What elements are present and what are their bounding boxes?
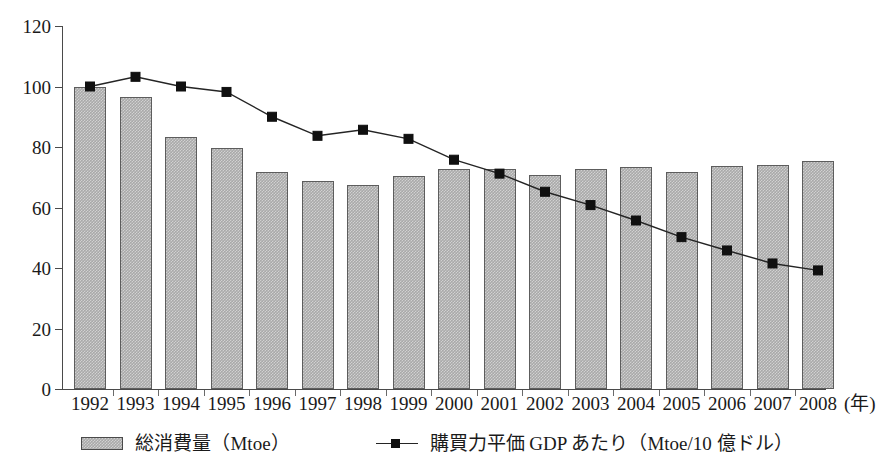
line-marker-2001 — [495, 169, 504, 178]
x-tick-label-2003: 2003 — [572, 393, 610, 416]
line-marker-2007 — [768, 259, 777, 268]
line-marker-1998 — [359, 125, 368, 134]
x-axis-labels: 1992199319941995199619971998199920002001… — [62, 393, 852, 421]
x-tick-label-1999: 1999 — [390, 393, 428, 416]
y-tick-label: 20 — [32, 319, 51, 338]
line-marker-2002 — [541, 187, 550, 196]
line-series-path — [90, 77, 818, 271]
bar-swatch-icon — [81, 437, 123, 450]
y-tick-mark — [55, 268, 62, 269]
y-tick-mark — [55, 329, 62, 330]
x-tick-label-2006: 2006 — [708, 393, 746, 416]
legend-entry-gdp-intensity: 購買力平価 GDP あたり（Mtoe/10 億ドル） — [376, 434, 793, 453]
line-marker-1992 — [86, 82, 95, 91]
line-marker-1993 — [131, 72, 140, 81]
legend-label-total-consumption: 総消費量（Mtoe） — [135, 434, 289, 453]
line-marker-2000 — [450, 155, 459, 164]
y-tick-mark — [55, 87, 62, 88]
x-tick-label-2005: 2005 — [663, 393, 701, 416]
y-tick-label: 40 — [32, 259, 51, 278]
y-tick-mark — [55, 389, 62, 390]
line-marker-1997 — [313, 131, 322, 140]
x-tick-label-1993: 1993 — [117, 393, 155, 416]
x-tick-label-2000: 2000 — [435, 393, 473, 416]
y-tick-label: 60 — [32, 198, 51, 217]
y-tick-label: 120 — [23, 17, 52, 36]
line-marker-1994 — [177, 82, 186, 91]
x-tick-label-1992: 1992 — [71, 393, 109, 416]
x-tick-label-2004: 2004 — [617, 393, 655, 416]
line-series-layer — [62, 26, 826, 390]
x-tick-label-1994: 1994 — [162, 393, 200, 416]
x-tick-label-1995: 1995 — [208, 393, 246, 416]
y-tick-mark — [55, 147, 62, 148]
x-tick-label-2008: 2008 — [799, 393, 837, 416]
y-tick-label: 0 — [42, 380, 52, 399]
y-tick-label: 80 — [32, 138, 51, 157]
legend-label-gdp-intensity: 購買力平価 GDP あたり（Mtoe/10 億ドル） — [430, 434, 793, 453]
line-marker-swatch-icon — [376, 437, 418, 450]
line-marker-1995 — [222, 87, 231, 96]
line-marker-1996 — [268, 112, 277, 121]
x-tick-label-1998: 1998 — [344, 393, 382, 416]
x-axis-unit-label: (年) — [844, 393, 876, 416]
legend-entry-total-consumption: 総消費量（Mtoe） — [81, 434, 289, 453]
x-tick-label-1996: 1996 — [253, 393, 291, 416]
line-series-markers — [86, 72, 823, 275]
y-tick-mark — [55, 26, 62, 27]
line-marker-1999 — [404, 134, 413, 143]
y-tick-mark — [55, 208, 62, 209]
line-marker-2003 — [586, 201, 595, 210]
line-marker-2008 — [814, 266, 823, 275]
line-marker-2005 — [677, 233, 686, 242]
y-tick-label: 100 — [23, 77, 52, 96]
x-tick-label-2007: 2007 — [754, 393, 792, 416]
line-marker-2004 — [632, 216, 641, 225]
x-tick-label-2002: 2002 — [526, 393, 564, 416]
plot-area: 020406080100120 — [62, 26, 826, 390]
chart-legend: 総消費量（Mtoe） 購買力平価 GDP あたり（Mtoe/10 億ドル） — [0, 426, 874, 460]
x-tick-label-1997: 1997 — [299, 393, 337, 416]
line-marker-2006 — [723, 246, 732, 255]
x-tick-label-2001: 2001 — [481, 393, 519, 416]
